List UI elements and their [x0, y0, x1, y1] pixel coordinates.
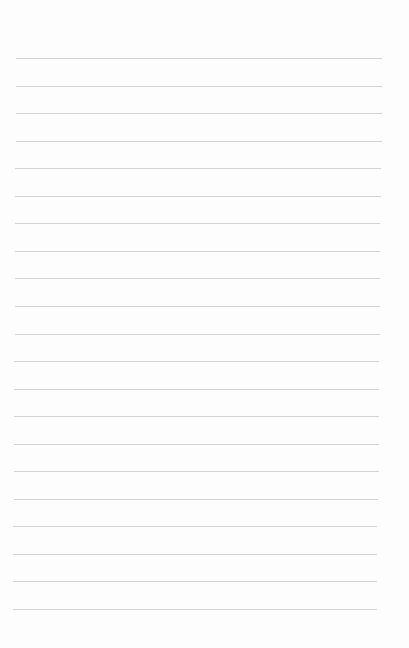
ruled-line	[15, 251, 380, 252]
ruled-line	[15, 334, 380, 335]
ruled-line	[15, 196, 381, 197]
ruled-line	[16, 113, 382, 114]
ruled-line	[14, 389, 379, 390]
ruled-line	[14, 444, 379, 445]
lined-paper-page	[0, 0, 409, 648]
ruled-line	[13, 581, 377, 582]
ruled-line	[13, 609, 377, 610]
ruled-line	[16, 58, 382, 59]
ruled-line	[14, 471, 379, 472]
ruled-line	[15, 278, 380, 279]
ruled-line	[14, 361, 379, 362]
ruled-line	[13, 554, 377, 555]
ruled-line	[15, 168, 381, 169]
ruled-line	[13, 526, 377, 527]
ruled-line	[14, 499, 378, 500]
ruled-line	[14, 416, 379, 417]
ruled-line	[15, 223, 380, 224]
ruled-line	[16, 86, 382, 87]
ruled-line	[16, 141, 382, 142]
ruled-line	[15, 306, 380, 307]
